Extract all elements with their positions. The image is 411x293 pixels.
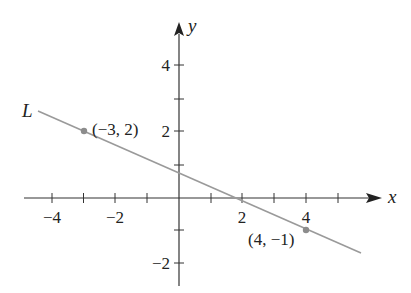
x-axis-label: x: [387, 186, 397, 207]
x-tick-label: 2: [238, 208, 247, 227]
y-tick-label: 2: [162, 122, 171, 141]
x-tick-label: −2: [106, 208, 124, 227]
y-tick-label: −2: [152, 254, 170, 273]
x-tick-label: −4: [43, 208, 62, 227]
y-tick-label: 4: [162, 56, 171, 75]
y-axis-label: y: [186, 15, 197, 36]
line-label: L: [21, 100, 33, 121]
y-axis-arrow-icon: [174, 22, 184, 36]
point-label: (−3, 2): [92, 120, 138, 139]
y-axis: 4 2 −2 y: [152, 15, 197, 286]
point-label: (4, −1): [248, 230, 294, 249]
coordinate-plot: −4 −2 2 4 x 4 2 −2 y L (−3, 2) (4, −1): [0, 0, 411, 293]
x-tick-label: 4: [302, 208, 311, 227]
point-neg3-2: (−3, 2): [81, 120, 139, 139]
point-4-neg1: (4, −1): [248, 227, 309, 249]
line-L: L: [21, 100, 361, 253]
x-axis: −4 −2 2 4 x: [24, 186, 397, 227]
